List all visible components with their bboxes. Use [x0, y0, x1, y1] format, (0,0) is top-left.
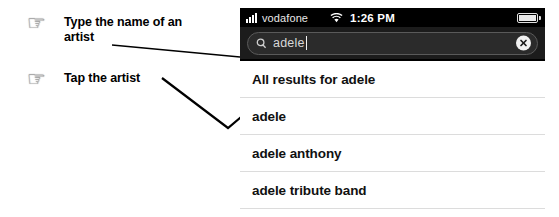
wifi-icon: [330, 13, 343, 23]
annotation-label: Type the name of an artist: [64, 15, 199, 45]
clear-search-button[interactable]: [516, 36, 531, 51]
annotation-tap-artist: ☞ Tap the artist: [27, 71, 217, 87]
signal-bars-icon: [246, 13, 257, 23]
annotation-label: Tap the artist: [64, 71, 140, 86]
result-row-adele-tribute-band[interactable]: adele tribute band: [240, 172, 545, 209]
result-label: adele: [252, 109, 286, 124]
text-cursor: [306, 36, 308, 50]
search-bar: adele: [240, 27, 545, 61]
clock-label: 1:26 PM: [350, 12, 395, 24]
status-bar: vodafone 1:26 PM: [240, 8, 545, 27]
leader-line-search: [112, 45, 240, 57]
phone-screen: vodafone 1:26 PM: [240, 8, 545, 217]
pointing-hand-icon: ☞: [27, 71, 57, 87]
carrier-label: vodafone: [262, 12, 308, 24]
result-row-adele-anthony[interactable]: adele anthony: [240, 135, 545, 172]
result-row-all-results[interactable]: All results for adele: [240, 61, 545, 98]
pointing-hand-icon: ☞: [27, 15, 57, 31]
tutorial-screenshot: ☞ Type the name of an artist ☞ Tap the a…: [0, 0, 559, 217]
magnifier-icon: [256, 38, 267, 49]
result-label: All results for adele: [252, 72, 375, 87]
result-label: adele tribute band: [252, 183, 366, 198]
search-results-list: All results for adele adele adele anthon…: [240, 61, 545, 209]
battery-icon: [517, 13, 538, 23]
result-label: adele anthony: [252, 146, 341, 161]
annotation-type-artist: ☞ Type the name of an artist: [27, 15, 217, 45]
search-input[interactable]: adele: [247, 32, 538, 55]
result-row-adele[interactable]: adele: [240, 98, 545, 135]
search-input-value: adele: [273, 36, 305, 50]
